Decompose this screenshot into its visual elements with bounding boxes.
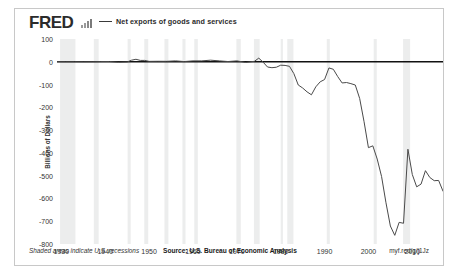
line-chart-canvas xyxy=(57,39,443,244)
recession-note: Shaded areas indicate U.S. recessions xyxy=(29,247,139,254)
series-line xyxy=(57,58,443,235)
y-axis-tick-label: 0 xyxy=(49,58,53,65)
y-axis-tick-label: -500 xyxy=(39,172,53,179)
y-axis-tick-label: -400 xyxy=(39,149,53,156)
legend-line-swatch xyxy=(99,21,112,22)
legend-series-label: Net exports of goods and services xyxy=(116,17,237,26)
short-url[interactable]: myf.red/g/j1Jz xyxy=(389,247,429,254)
recession-band xyxy=(236,39,240,244)
recession-band xyxy=(182,39,185,244)
series-polyline xyxy=(57,58,443,235)
plot-area: Billions of Dollars 1000-100-200-300-400… xyxy=(57,39,443,244)
y-axis-tick-label: -700 xyxy=(39,218,53,225)
y-axis-tick-label: 100 xyxy=(41,36,53,43)
chart-legend: Net exports of goods and services xyxy=(99,17,237,26)
chart-footer: Shaded areas indicate U.S. recessions So… xyxy=(15,247,443,259)
y-axis-label: Billions of Dollars xyxy=(44,115,51,169)
recession-band xyxy=(281,39,283,244)
recession-band xyxy=(94,39,99,244)
chart-header: FRED Net exports of goods and services xyxy=(15,9,443,35)
recession-band xyxy=(194,39,198,244)
recession-band xyxy=(254,39,260,244)
bar-chart-icon xyxy=(81,19,94,28)
recession-band xyxy=(164,39,168,244)
y-axis-tick-label: -200 xyxy=(39,104,53,111)
source-note: Source: U.S. Bureau of Economic Analysis xyxy=(163,247,297,254)
y-axis-tick-label: -600 xyxy=(39,195,53,202)
recession-band xyxy=(128,39,131,244)
recession-bands xyxy=(60,39,410,244)
recession-band xyxy=(287,39,293,244)
y-axis-tick-label: -100 xyxy=(39,81,53,88)
recession-band xyxy=(60,39,75,244)
recession-band xyxy=(374,39,377,244)
recession-band xyxy=(144,39,148,244)
fred-logo: FRED xyxy=(29,13,73,33)
chart-frame: FRED Net exports of goods and services B… xyxy=(14,8,444,266)
y-axis-tick-label: -300 xyxy=(39,127,53,134)
